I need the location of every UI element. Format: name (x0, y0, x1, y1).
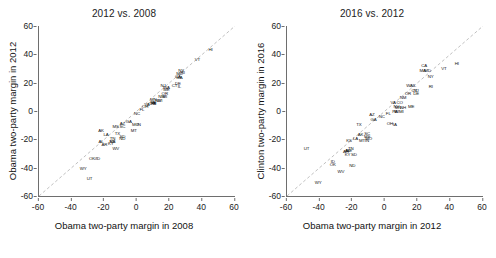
data-point-hi: HI (208, 48, 212, 52)
data-point-fl: FL (139, 107, 144, 111)
y-tick-mark (282, 139, 285, 140)
x-tick-mark (384, 198, 385, 201)
data-point-hi: HI (455, 62, 459, 66)
y-tick-label: 0 (276, 106, 281, 116)
y-axis-label: Obama two-party margin in 2012 (7, 42, 18, 180)
y-tick-label: 0 (28, 106, 33, 116)
y-tick-mark (282, 54, 285, 55)
y-tick-label: -20 (21, 134, 33, 144)
x-tick-mark (417, 198, 418, 201)
data-point-ct: CT (172, 83, 178, 87)
data-point-ri: RI (181, 71, 185, 75)
x-tick-mark (319, 198, 320, 201)
x-tick-mark (201, 198, 202, 201)
x-tick-label: -40 (65, 202, 77, 212)
data-point-nd: ND (349, 164, 355, 168)
x-tick-mark (351, 198, 352, 201)
x-tick-label: 20 (164, 202, 173, 212)
data-point-ga: GA (371, 117, 377, 121)
x-tick-mark (482, 198, 483, 201)
data-point-wv: WV (112, 147, 119, 151)
y-tick-label: 60 (272, 21, 281, 31)
x-tick-mark (169, 198, 170, 201)
panel-2016-vs-2012: 2016 vs. 2012 HIVTCAMDMANYRIWAILCTNJORDE… (248, 0, 496, 258)
data-point-ut: UT (87, 177, 93, 181)
data-point-la: LA (353, 137, 358, 141)
y-tick-mark (34, 168, 37, 169)
x-tick-mark (136, 198, 137, 201)
data-point-mi: MI (399, 110, 404, 114)
data-point-nc: NC (134, 112, 140, 116)
data-point-tx: TX (115, 131, 120, 135)
y-tick-label: 60 (24, 21, 33, 31)
x-tick-mark (71, 198, 72, 201)
data-point-nd: ND (119, 137, 125, 141)
data-point-ny: NY (428, 75, 434, 79)
y-tick-label: -60 (21, 191, 33, 201)
data-point-sc: SC (119, 124, 125, 128)
x-tick-label: 40 (445, 202, 454, 212)
x-tick-label: 60 (229, 202, 238, 212)
y-tick-label: -60 (269, 191, 281, 201)
y-tick-label: 20 (24, 78, 33, 88)
plot-area: HIVTCAMDMANYRIWAILCTNJORDENMVACONVMNNHME… (287, 26, 483, 196)
y-tick-label: -20 (269, 134, 281, 144)
y-tick-label: 40 (24, 49, 33, 59)
x-tick-mark (234, 198, 235, 201)
x-tick-label: -60 (32, 202, 44, 212)
x-tick-mark (103, 198, 104, 201)
data-point-sd: SD (351, 153, 357, 157)
scatter-plot-figure: 2012 vs. 2008 HIVTNYMDCAMARIDEILNJCTWAME… (0, 0, 496, 258)
data-point-ut: UT (304, 147, 310, 151)
data-point-il: IL (178, 85, 181, 89)
y-tick-label: -40 (269, 163, 281, 173)
plot-frame: HIVTCAMDMANYRIWAILCTNJORDENMVACONVMNNHME… (286, 26, 483, 197)
y-tick-mark (34, 83, 37, 84)
data-point-ks: KS (346, 139, 352, 143)
y-tick-mark (34, 196, 37, 197)
data-point-fl: FL (386, 112, 391, 116)
data-point-ar: AR (343, 150, 349, 154)
y-tick-mark (282, 83, 285, 84)
data-point-la: LA (103, 133, 108, 137)
data-point-in: IN (365, 139, 369, 143)
data-point-nc: NC (379, 114, 385, 118)
x-tick-label: -20 (97, 202, 109, 212)
x-tick-label: 60 (477, 202, 486, 212)
data-point-wy: WY (315, 181, 322, 185)
y-tick-mark (34, 111, 37, 112)
data-point-tx: TX (356, 123, 361, 127)
data-point-me: ME (408, 105, 414, 109)
panel-title: 2012 vs. 2008 (0, 8, 248, 19)
data-point-ok: OK (330, 163, 336, 167)
data-point-ar: AR (101, 143, 107, 147)
panel-2012-vs-2008: 2012 vs. 2008 HIVTNYMDCAMARIDEILNJCTWAME… (0, 0, 248, 258)
data-point-ri: RI (429, 85, 433, 89)
x-axis-label: Obama two-party margin in 2008 (0, 220, 248, 231)
x-tick-label: -20 (345, 202, 357, 212)
y-tick-label: 40 (272, 49, 281, 59)
y-tick-mark (282, 111, 285, 112)
data-point-wy: WY (80, 167, 87, 171)
y-tick-label: -40 (21, 163, 33, 173)
data-point-ak: AK (98, 129, 104, 133)
y-tick-mark (34, 54, 37, 55)
y-tick-mark (34, 26, 37, 27)
y-tick-mark (282, 168, 285, 169)
plot-area: HIVTNYMDCAMARIDEILNJCTWAMEORMINMMNWINVIA… (39, 26, 235, 196)
x-tick-mark (449, 198, 450, 201)
y-tick-mark (282, 196, 285, 197)
data-point-co: CO (149, 102, 155, 106)
x-axis-label: Obama two-party margin in 2012 (248, 220, 496, 231)
data-point-wv: WV (338, 170, 345, 174)
x-tick-mark (286, 198, 287, 201)
data-point-de: DE (413, 92, 419, 96)
x-tick-mark (38, 198, 39, 201)
data-point-vt: VT (441, 66, 446, 70)
x-tick-label: -40 (313, 202, 325, 212)
panel-title: 2016 vs. 2012 (248, 8, 496, 19)
plot-frame: HIVTNYMDCAMARIDEILNJCTWAMEORMINMMNWINVIA… (38, 26, 235, 197)
data-point-ia: IA (393, 123, 397, 127)
x-tick-label: -60 (280, 202, 292, 212)
y-tick-mark (282, 26, 285, 27)
